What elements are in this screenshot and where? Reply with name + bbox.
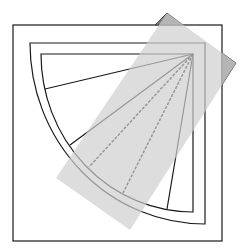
diagram-canvas [0,0,249,252]
